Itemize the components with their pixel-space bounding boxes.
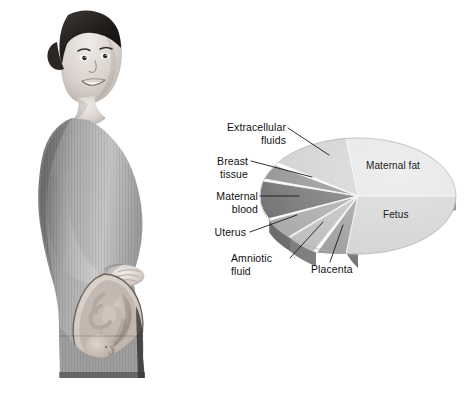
label-breast-tissue: Breast tissue (190, 155, 248, 180)
label-amniotic-fluid: Amniotic fluid (231, 252, 291, 277)
label-placenta: Placenta (311, 263, 371, 276)
figure-root: Extracellular fluids Breast tissue Mater… (0, 0, 466, 394)
label-uterus: Uterus (180, 226, 246, 239)
pregnant-woman-photo (26, 6, 148, 378)
label-maternal-fat: Maternal fat (366, 160, 420, 171)
label-maternal-blood: Maternal blood (180, 190, 258, 215)
label-extracellular-fluids: Extracellular fluids (190, 121, 286, 146)
label-fetus: Fetus (383, 209, 409, 220)
